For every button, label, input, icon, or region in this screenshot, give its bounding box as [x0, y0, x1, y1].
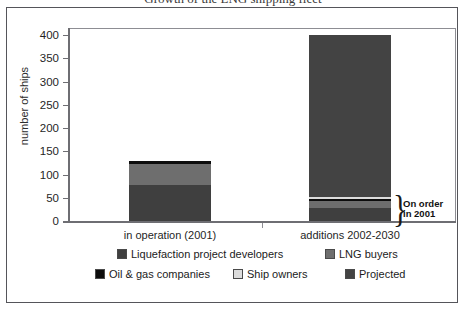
- x-axis-divider-tick: [262, 223, 263, 228]
- legend-item[interactable]: LNG buyers: [325, 248, 398, 260]
- y-tick-label: 200: [19, 123, 59, 133]
- y-tick-label: 300: [19, 77, 59, 87]
- legend-row: Oil & gas companiesShip ownersProjected: [7, 268, 459, 286]
- legend-label: Oil & gas companies: [109, 268, 210, 280]
- bar-segment: [129, 185, 211, 221]
- legend-item[interactable]: Projected: [345, 268, 405, 280]
- on-order-line-2: in 2001: [403, 209, 443, 219]
- y-tick-label: 0: [19, 216, 59, 226]
- y-axis-line: [68, 28, 70, 223]
- legend-row: Liquefaction project developersLNG buyer…: [7, 248, 459, 266]
- chart-title: Growth of the LNG shipping fleet: [0, 0, 466, 7]
- bar-1[interactable]: [129, 35, 211, 221]
- y-tick-mark: [63, 35, 68, 36]
- bar-segment: [129, 161, 211, 164]
- x-tick-label: additions 2002-2030: [260, 229, 440, 241]
- chart-title-strip: Growth of the LNG shipping fleet: [0, 0, 466, 7]
- legend-label: LNG buyers: [339, 248, 398, 260]
- legend-swatch-icon: [117, 249, 127, 259]
- legend-item[interactable]: Ship owners: [233, 268, 308, 280]
- bar-2[interactable]: [309, 35, 391, 221]
- y-tick-mark: [63, 58, 68, 59]
- figure-frame: number of ships 050100150200250300350400…: [6, 7, 458, 303]
- y-tick-mark: [63, 175, 68, 176]
- y-tick-label: 100: [19, 170, 59, 180]
- legend-swatch-icon: [233, 269, 243, 279]
- y-tick-label: 250: [19, 100, 59, 110]
- y-tick-mark: [63, 198, 68, 199]
- y-tick-mark: [63, 82, 68, 83]
- legend-swatch-icon: [345, 269, 355, 279]
- legend-swatch-icon: [95, 269, 105, 279]
- y-tick-mark: [63, 151, 68, 152]
- y-tick-label: 400: [19, 30, 59, 40]
- legend-label: Projected: [359, 268, 405, 280]
- legend-swatch-icon: [325, 249, 335, 259]
- bar-segment: [309, 199, 391, 202]
- x-tick-label: in operation (2001): [80, 229, 260, 241]
- y-tick-label: 50: [19, 193, 59, 203]
- bar-segment: [309, 201, 391, 208]
- y-tick-mark: [63, 128, 68, 129]
- legend-item[interactable]: Liquefaction project developers: [117, 248, 283, 260]
- bar-segment: [309, 35, 391, 197]
- y-tick-label: 150: [19, 146, 59, 156]
- bar-segment: [129, 164, 211, 184]
- y-tick-mark: [63, 221, 68, 222]
- on-order-annotation: On order in 2001: [403, 199, 443, 219]
- y-tick-label: 350: [19, 53, 59, 63]
- legend-label: Ship owners: [247, 268, 308, 280]
- bar-segment: [309, 197, 391, 199]
- legend-label: Liquefaction project developers: [131, 248, 283, 260]
- bar-segment: [309, 208, 391, 221]
- legend-item[interactable]: Oil & gas companies: [95, 268, 210, 280]
- y-tick-mark: [63, 105, 68, 106]
